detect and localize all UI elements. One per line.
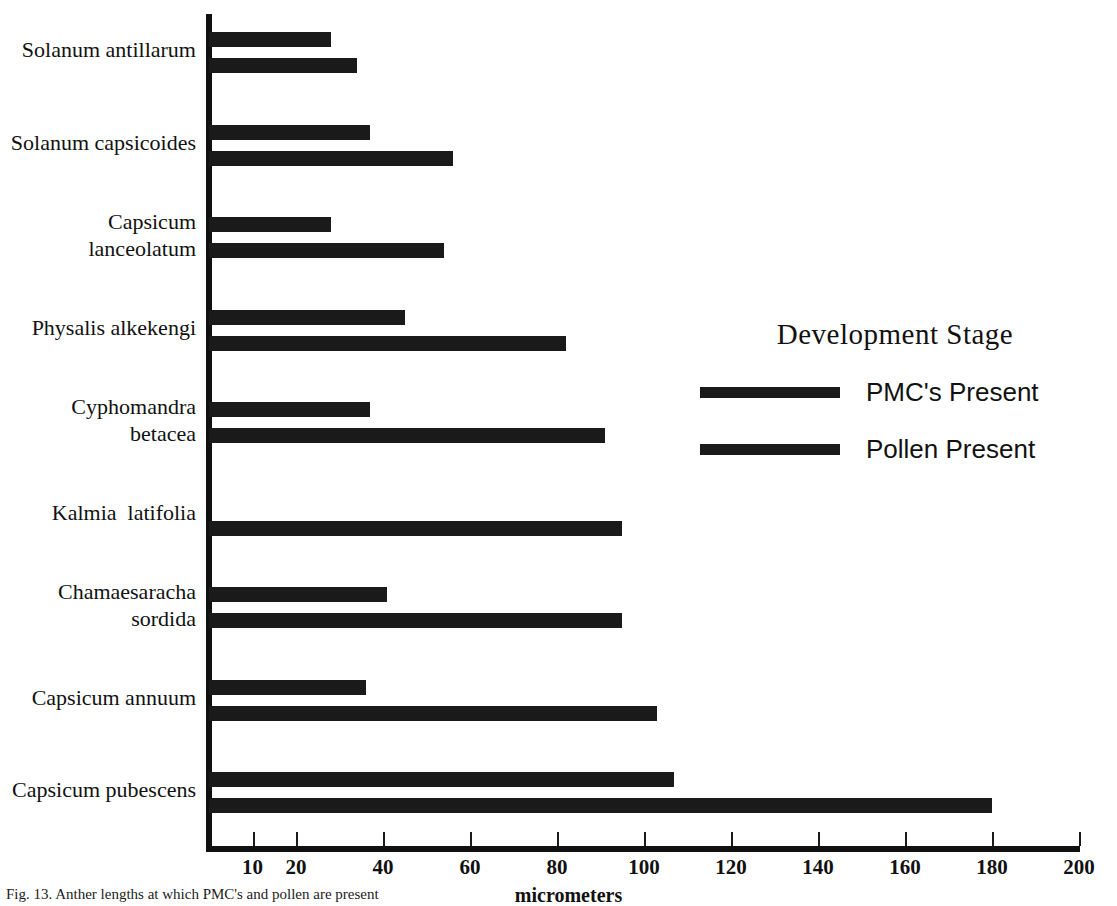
bar [209, 772, 674, 787]
x-axis-label-text: micrometers [515, 884, 622, 906]
x-axis-tick-label: 40 [373, 855, 394, 880]
figure-caption: Fig. 13. Anther lengths at which PMC's a… [6, 886, 379, 906]
x-axis-tick-label: 80 [547, 855, 568, 880]
category-label-line-1: Solanum antillarum [22, 37, 196, 62]
legend-item-pollen: Pollen Present [700, 434, 1090, 465]
category-label-line-1: Capsicum [108, 209, 196, 234]
category-label-line-1: Capsicum pubescens [12, 777, 196, 802]
category-label: Cyphomandrabetacea [71, 393, 196, 447]
x-axis-tick-label: 200 [1063, 855, 1095, 880]
category-label: Capsicumlanceolatum [88, 208, 196, 262]
bar [209, 32, 331, 47]
category-label: Chamaesarachasordida [58, 578, 196, 632]
category-label-line-2: betacea [71, 420, 196, 447]
legend-item-pmc: PMC's Present [700, 377, 1090, 408]
x-axis-tick [992, 832, 994, 846]
x-axis-tick-label: 10 [242, 855, 263, 880]
category-label-line-1: Capsicum annuum [32, 685, 196, 710]
legend-swatch-pmc [700, 387, 840, 398]
category-label: Physalis alkekengi [32, 314, 196, 341]
x-axis-tick [1079, 832, 1081, 846]
x-axis-tick-label: 160 [889, 855, 921, 880]
bar [209, 428, 605, 443]
bar [209, 58, 357, 73]
bar [209, 706, 657, 721]
category-label-line-1: Solanum capsicoides [11, 130, 196, 155]
bar [209, 680, 366, 695]
category-label: Capsicum pubescens [12, 776, 196, 803]
x-axis-tick [731, 832, 733, 846]
category-label: Capsicum annuum [32, 684, 196, 711]
x-axis-tick [557, 832, 559, 846]
category-label-line-1: Cyphomandra [71, 394, 196, 419]
bar [209, 613, 622, 628]
x-axis-line [206, 846, 1080, 852]
bar [209, 151, 453, 166]
x-axis-tick [905, 832, 907, 846]
x-axis-tick [644, 832, 646, 846]
bar [209, 402, 370, 417]
figure-root: 1020406080100120140160180200 Solanum ant… [0, 0, 1117, 906]
bar [209, 243, 444, 258]
category-label: Kalmia latifolia [52, 499, 196, 526]
x-axis-tick-label: 140 [802, 855, 834, 880]
bar [209, 217, 331, 232]
x-axis-tick-label: 60 [460, 855, 481, 880]
x-axis-tick [296, 832, 298, 846]
category-label: Solanum antillarum [22, 36, 196, 63]
x-axis-tick [383, 832, 385, 846]
legend-label-pollen: Pollen Present [866, 434, 1035, 465]
legend-label-pmc: PMC's Present [866, 377, 1039, 408]
x-axis-tick-label: 120 [715, 855, 747, 880]
category-label-line-1: Chamaesaracha [58, 579, 196, 604]
bar [209, 336, 566, 351]
legend: Development Stage PMC's Present Pollen P… [700, 318, 1090, 465]
bar [209, 125, 370, 140]
x-axis-tick-label: 100 [628, 855, 660, 880]
x-axis-tick-label: 180 [976, 855, 1008, 880]
legend-title: Development Stage [700, 318, 1090, 351]
bar [209, 798, 992, 813]
category-label-line-1: Kalmia latifolia [52, 500, 196, 525]
x-axis-tick [253, 832, 255, 846]
category-label: Solanum capsicoides [11, 129, 196, 156]
x-axis-tick [470, 832, 472, 846]
x-axis-tick-label: 20 [286, 855, 307, 880]
bar [209, 587, 387, 602]
category-label-line-2: lanceolatum [88, 235, 196, 262]
category-label-line-1: Physalis alkekengi [32, 315, 196, 340]
legend-swatch-pollen [700, 444, 840, 455]
bar [209, 521, 622, 536]
x-axis-tick [818, 832, 820, 846]
bar [209, 310, 405, 325]
category-label-line-2: sordida [58, 605, 196, 632]
